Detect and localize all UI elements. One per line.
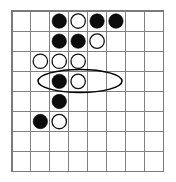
board-diagram [0, 0, 176, 182]
black-stone-icon [52, 34, 66, 48]
white-stone-icon [52, 54, 66, 68]
white-stone-icon [33, 54, 47, 68]
white-stone-icon [71, 14, 85, 28]
white-stone-icon [71, 54, 85, 68]
black-stone-icon [52, 94, 66, 108]
white-stone-icon [71, 74, 85, 88]
black-stone-icon [33, 114, 47, 128]
black-stone-icon [109, 14, 123, 28]
white-stone-icon [90, 34, 104, 48]
black-stone-icon [90, 14, 104, 28]
black-stone-icon [52, 74, 66, 88]
white-stone-icon [52, 114, 66, 128]
black-stone-icon [71, 34, 85, 48]
black-stone-icon [52, 14, 66, 28]
board-canvas [0, 0, 176, 182]
